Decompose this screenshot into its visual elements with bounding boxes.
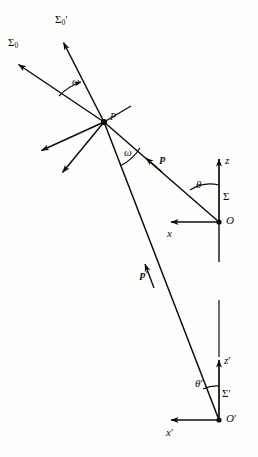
theta-arc [190,184,219,190]
rays-from-point-p [19,43,132,173]
label-vector-p-prime: p′ [140,269,149,280]
label-sigma-zero-prime: Σ0′ [55,14,68,27]
label-axis-x: x [167,228,172,239]
label-theta-prime: θ′ [195,378,203,389]
ray-left-upper [42,122,105,151]
label-origin-o-prime: O′ [226,413,236,424]
origin-o-prime-dot [216,417,221,422]
ray-upper-right-extension [104,106,131,122]
origin-o-dot [216,219,221,224]
ray-sigma-zero-prime [64,43,105,123]
ray-left-lower [63,122,105,173]
vector-diagram-svg [0,0,258,457]
label-omega-upper: ω [72,76,80,87]
figure-canvas: Σ0 Σ0′ P ω ω p p′ z x z′ x′ θ θ′ Σ Σ′ O … [0,0,258,457]
label-frame-sigma: Σ [223,191,229,202]
label-sigma-zero: Σ0 [8,37,18,50]
vector-p-group [104,122,219,222]
label-axis-z-prime: z′ [224,355,231,366]
label-vector-p: p [160,153,166,164]
label-omega-lower: ω [124,147,132,158]
label-axis-x-prime: x′ [166,427,173,438]
vector-p-prime-group [104,122,219,420]
label-point-p: P [110,112,116,122]
point-p-dot [101,119,107,125]
label-origin-o: O [226,215,234,226]
label-theta: θ [196,179,201,190]
vector-p-prime-line [104,122,219,420]
frame-sigma-axes [171,159,222,262]
label-axis-z: z [225,155,229,166]
label-frame-sigma-prime: Σ′ [222,388,231,399]
